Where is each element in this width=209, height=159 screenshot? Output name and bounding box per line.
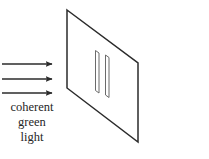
optics-figure: coherent green light xyxy=(0,0,209,159)
slit-right xyxy=(106,55,110,98)
beam-arrow-group xyxy=(2,64,52,93)
slit-left xyxy=(96,51,100,94)
caption-line-1: coherent xyxy=(0,100,64,115)
caption-line-3: light xyxy=(0,130,64,145)
beam-caption: coherent green light xyxy=(0,100,64,145)
double-slit-barrier xyxy=(67,10,138,142)
caption-line-2: green xyxy=(0,115,64,130)
